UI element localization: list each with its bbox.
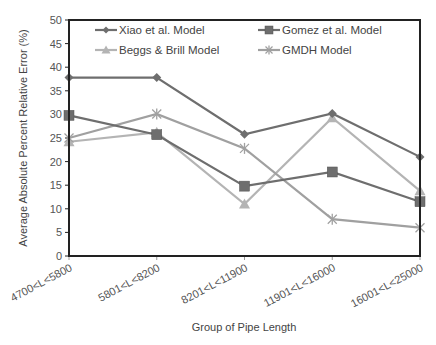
diamond-marker (328, 109, 337, 118)
legend-label: Xiao et al. Model (119, 24, 205, 36)
legend-label: GMDH Model (282, 44, 352, 56)
series-layer (64, 73, 426, 233)
square-marker (265, 26, 273, 34)
y-tick-label: 10 (50, 203, 62, 215)
y-tick-label: 30 (50, 108, 62, 120)
line-chart: 05101520253035404550 4700<L<58005801<L<8… (0, 0, 436, 345)
y-tick-label: 0 (56, 250, 62, 262)
y-tick-label: 50 (50, 14, 62, 26)
diamond-marker (103, 27, 110, 34)
legend-label: Beggs & Brill Model (119, 44, 219, 56)
legend: Xiao et al. ModelGomez et al. ModelBeggs… (95, 24, 382, 56)
x-axis-title: Group of Pipe Length (192, 321, 297, 333)
y-tick-label: 15 (50, 179, 62, 191)
legend-label: Gomez et al. Model (282, 24, 382, 36)
y-tick-label: 5 (56, 226, 62, 238)
y-tick-label: 45 (50, 38, 62, 50)
square-marker (240, 181, 250, 191)
x-axis-ticks: 4700<L<58005801<L<82008201<L<1190011901<… (8, 256, 425, 309)
legend-item: GMDH Model (258, 44, 352, 56)
y-tick-label: 20 (50, 156, 62, 168)
y-axis-ticks: 05101520253035404550 (50, 14, 69, 262)
y-tick-label: 40 (50, 61, 62, 73)
legend-item: Beggs & Brill Model (95, 44, 219, 56)
square-marker (327, 167, 337, 177)
x-tick-label: 8201<L<11900 (179, 261, 249, 306)
star-marker (240, 143, 249, 154)
x-tick-label: 5801<L<8200 (96, 261, 162, 303)
square-marker (152, 130, 162, 140)
y-tick-label: 25 (50, 132, 62, 144)
legend-item: Xiao et al. Model (95, 24, 205, 36)
x-tick-label: 16001<L<25000 (349, 261, 425, 309)
legend-item: Gomez et al. Model (258, 24, 382, 36)
y-tick-label: 35 (50, 85, 62, 97)
x-tick-label: 11901<L<16000 (262, 261, 338, 309)
x-tick-label: 4700<L<5800 (8, 261, 74, 303)
y-axis-title: Average Absolute Percent Relative Error … (17, 29, 29, 246)
